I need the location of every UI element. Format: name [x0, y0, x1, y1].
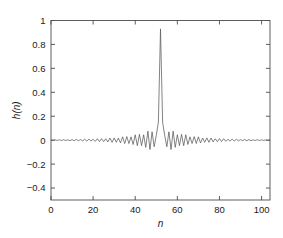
- chart-figure: −0.4−0.200.20.40.60.81 020406080100 n h(…: [0, 0, 283, 238]
- y-tick-label: 0.6: [32, 63, 45, 74]
- y-tick-label: 0.8: [32, 39, 45, 50]
- y-axis-title: h(n): [11, 101, 22, 119]
- x-tick-label: 0: [48, 204, 53, 215]
- y-tick-label: −0.4: [27, 182, 46, 193]
- impulse-response-plot: −0.4−0.200.20.40.60.81 020406080100 n h(…: [0, 0, 283, 238]
- x-tick-label: 40: [130, 204, 141, 215]
- x-tick-label: 80: [214, 204, 225, 215]
- x-tick-label: 60: [172, 204, 183, 215]
- y-tick-label: 0: [40, 135, 45, 146]
- x-tick-label: 20: [88, 204, 99, 215]
- x-axis-title: n: [158, 218, 164, 229]
- y-tick-label: −0.2: [27, 159, 46, 170]
- y-tick-label: 0.2: [32, 111, 45, 122]
- y-tick-label: 0.4: [32, 87, 45, 98]
- y-tick-label: 1: [40, 15, 45, 26]
- x-tick-label: 100: [254, 204, 270, 215]
